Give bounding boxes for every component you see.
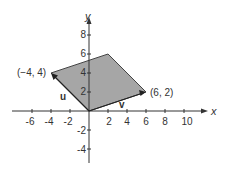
vector-u-label: u (60, 91, 66, 102)
svg-text:6: 6 (143, 116, 149, 127)
point-u-label: (−4, 4) (17, 67, 46, 78)
svg-text:8: 8 (162, 116, 168, 127)
svg-text:-2: -2 (64, 116, 73, 127)
vector-v-label: v (119, 99, 125, 110)
svg-text:-2: -2 (77, 125, 86, 136)
svg-text:-4: -4 (45, 116, 54, 127)
svg-text:2: 2 (80, 86, 86, 97)
svg-text:4: 4 (124, 116, 130, 127)
parallelogram-diagram: -6 -4 -2 2 4 6 8 10 8 6 4 2 -2 -4 x y u … (0, 0, 226, 173)
x-axis-arrow-icon (201, 109, 208, 114)
parallelogram (51, 54, 146, 111)
x-axis-label: x (210, 105, 217, 117)
coordinate-plane: -6 -4 -2 2 4 6 8 10 8 6 4 2 -2 -4 x y u … (0, 0, 226, 173)
point-v-label: (6, 2) (150, 87, 173, 98)
x-tick-labels: -6 -4 -2 2 4 6 8 10 (26, 116, 193, 127)
svg-text:8: 8 (80, 29, 86, 40)
svg-text:6: 6 (80, 48, 86, 59)
svg-text:10: 10 (181, 116, 193, 127)
svg-text:4: 4 (80, 67, 86, 78)
svg-text:-6: -6 (26, 116, 35, 127)
svg-text:2: 2 (106, 116, 112, 127)
y-axis-label: y (84, 10, 92, 22)
svg-text:-4: -4 (77, 144, 86, 155)
